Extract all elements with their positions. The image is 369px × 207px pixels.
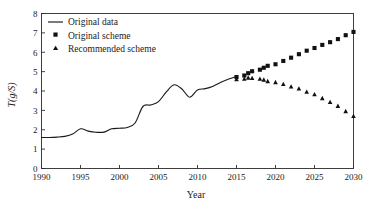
y-axis-tick-labels: 012345678 (33, 9, 38, 174)
y-tick-label: 6 (33, 48, 38, 58)
y-tick-label: 7 (33, 28, 38, 38)
chart-plot-area: 199019952000200520102015202020252030 012… (0, 0, 369, 207)
y-tick-label: 0 (33, 164, 38, 174)
original-scheme-marker (266, 64, 270, 68)
x-axis-tick-labels: 199019952000200520102015202020252030 (33, 172, 364, 182)
original-scheme-marker (281, 59, 285, 63)
y-axis-title: T(g/S) (6, 82, 18, 108)
original-scheme-marker (262, 66, 266, 70)
x-tick-label: 1995 (72, 172, 91, 182)
chart-figure: 199019952000200520102015202020252030 012… (0, 0, 369, 207)
original-scheme-marker (320, 43, 324, 47)
original-scheme-marker (351, 30, 355, 34)
x-tick-label: 2010 (189, 172, 208, 182)
original-scheme-marker (344, 33, 348, 37)
original-scheme-marker (336, 37, 340, 41)
x-tick-label: 2030 (345, 172, 364, 182)
x-tick-label: 2020 (267, 172, 286, 182)
x-axis-title: Year (187, 189, 206, 200)
original-scheme-marker (305, 49, 309, 53)
original-scheme-marker (258, 68, 262, 72)
original-scheme-marker (312, 46, 316, 50)
original-scheme-marker (273, 62, 277, 66)
original-scheme-marker (289, 56, 293, 60)
legend-square-swatch (53, 33, 57, 37)
x-tick-label: 2025 (306, 172, 325, 182)
original-scheme-marker (250, 69, 254, 73)
original-scheme-marker (297, 52, 301, 56)
legend-label: Original data (68, 17, 119, 27)
x-tick-label: 2015 (228, 172, 247, 182)
y-tick-label: 4 (33, 86, 38, 96)
y-tick-label: 5 (33, 67, 38, 77)
x-tick-label: 2000 (111, 172, 130, 182)
legend-label: Original scheme (68, 31, 131, 41)
original-scheme-marker (246, 71, 250, 75)
y-tick-label: 8 (33, 9, 38, 19)
original-scheme-marker (328, 40, 332, 44)
y-tick-label: 2 (33, 125, 38, 135)
legend-label: Recommended scheme (68, 44, 156, 54)
y-tick-label: 3 (33, 106, 38, 116)
x-tick-label: 2005 (150, 172, 169, 182)
y-tick-label: 1 (33, 144, 38, 154)
